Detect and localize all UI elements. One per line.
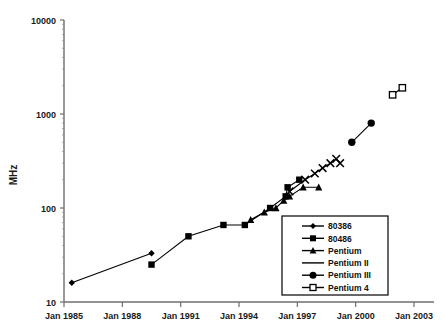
cpu-clock-speed-chart: 10000100010010 Jan 1985Jan 1988Jan 1991J… xyxy=(0,0,443,333)
legend-label: 80386 xyxy=(328,221,352,231)
data-point-square xyxy=(185,233,191,239)
data-point-square xyxy=(148,261,154,267)
data-point-circle xyxy=(348,139,355,146)
legend-label: Pentium III xyxy=(328,270,371,280)
data-point-open-square xyxy=(399,85,405,91)
x-axis-tick-label: Jan 1991 xyxy=(162,311,200,321)
x-axis-tick-label: Jan 1985 xyxy=(45,311,83,321)
y-axis-title: MHz xyxy=(8,165,19,186)
legend-label: Pentium II xyxy=(328,258,369,268)
chart-canvas: 10000100010010 Jan 1985Jan 1988Jan 1991J… xyxy=(0,0,443,333)
legend-label: Pentium 4 xyxy=(328,283,369,293)
x-axis-tick-label: Jan 1994 xyxy=(220,311,258,321)
data-point-circle xyxy=(310,272,317,279)
data-point-square xyxy=(220,222,226,228)
x-axis-tick-label: Jan 1988 xyxy=(103,311,141,321)
y-axis-tick-label: 100 xyxy=(41,204,56,214)
data-point-square xyxy=(310,235,316,241)
x-axis-tick-label: Jan 1997 xyxy=(278,311,316,321)
x-axis-tick-label: Jan 2003 xyxy=(395,311,433,321)
data-point-circle xyxy=(368,119,375,126)
legend-label: Pentium xyxy=(328,246,362,256)
data-point-open-square xyxy=(310,285,316,291)
y-axis-tick-label: 1000 xyxy=(36,110,56,120)
data-point-open-square xyxy=(389,92,395,98)
y-axis-tick-label: 10 xyxy=(46,298,56,308)
x-axis-tick-label: Jan 2000 xyxy=(337,311,375,321)
legend-label: 80486 xyxy=(328,234,352,244)
chart-legend: 8038680486PentiumPentium IIPentium IIIPe… xyxy=(282,216,388,295)
data-point-square xyxy=(242,222,248,228)
y-axis-tick-label: 10000 xyxy=(31,16,56,26)
